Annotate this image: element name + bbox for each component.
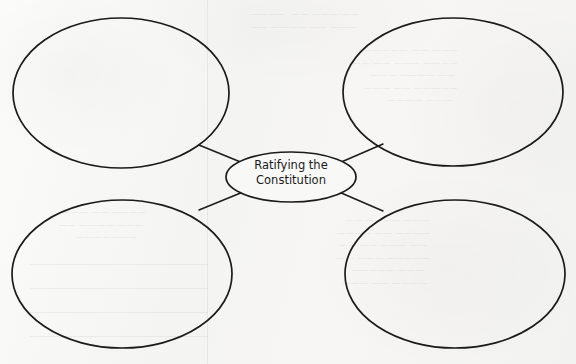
connector-bottom-right <box>339 192 383 211</box>
oval-top-right[interactable] <box>343 18 563 166</box>
worksheet-page: · · · · · · · —— ——— —— ———— ——— —— ————… <box>0 0 576 364</box>
connector-top-right <box>339 144 383 163</box>
connector-bottom-left <box>199 192 243 210</box>
oval-top-left[interactable] <box>13 18 229 168</box>
center-oval <box>226 152 356 202</box>
graphic-organizer-diagram <box>0 0 576 364</box>
oval-bottom-left[interactable] <box>12 200 232 348</box>
oval-bottom-right[interactable] <box>345 200 565 348</box>
connector-top-left <box>199 145 243 163</box>
